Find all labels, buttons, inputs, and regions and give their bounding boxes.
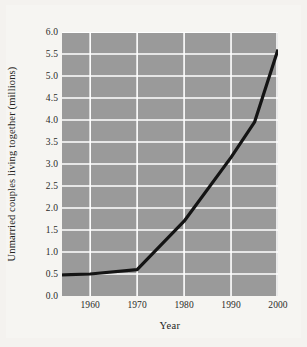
y-tick-label: 2.0 [28, 203, 58, 213]
y-tick-label: 1.5 [28, 225, 58, 235]
x-tick-label: 1970 [127, 300, 146, 311]
y-tick-label: 4.5 [28, 93, 58, 103]
y-tick-label: 6.0 [28, 27, 58, 37]
x-tick-label: 1960 [80, 300, 99, 311]
y-tick-label: 4.0 [28, 115, 58, 125]
series-line [62, 50, 278, 275]
y-tick-label: 0.5 [28, 269, 58, 279]
x-axis-label: Year [62, 320, 278, 331]
x-tick-label: 2000 [268, 300, 287, 311]
y-tick-label: 1.0 [28, 247, 58, 257]
data-line-series [62, 32, 278, 296]
y-axis-tick-labels: 0.00.51.01.52.02.53.03.54.04.55.05.56.0 [25, 32, 58, 296]
y-axis-label-holder: Unmarried couples living together (milli… [0, 32, 22, 296]
chart-figure: Unmarried couples living together (milli… [0, 0, 307, 347]
y-tick-label: 3.5 [28, 137, 58, 147]
x-tick-label: 1980 [174, 300, 193, 311]
plot-area [62, 32, 278, 296]
x-axis-tick-labels: 19601970198019902000 [62, 300, 278, 314]
y-axis-label: Unmarried couples living together (milli… [6, 67, 17, 262]
y-tick-label: 5.0 [28, 71, 58, 81]
y-tick-label: 5.5 [28, 49, 58, 59]
y-tick-label: 2.5 [28, 181, 58, 191]
y-tick-label: 3.0 [28, 159, 58, 169]
x-tick-label: 1990 [221, 300, 240, 311]
y-tick-label: 0.0 [28, 291, 58, 301]
